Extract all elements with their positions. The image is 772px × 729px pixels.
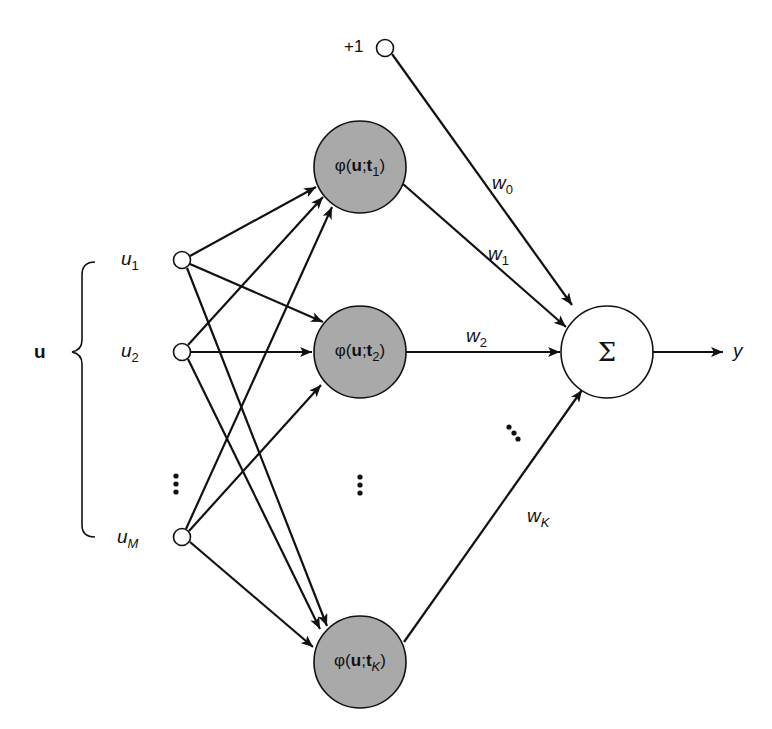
bias-node <box>377 40 394 57</box>
weight-label-w0: w0 <box>492 172 513 197</box>
output-connections <box>392 54 723 642</box>
ellipsis-hidden <box>357 474 362 495</box>
input-node-u2 <box>174 344 191 361</box>
edge-hK-sum <box>404 390 582 642</box>
edge-uM-h2 <box>189 385 321 531</box>
edge-bias-sum <box>392 54 572 305</box>
edge-h1-sum <box>403 184 566 327</box>
hidden-node-1-label: φ(u;t1) <box>335 156 385 179</box>
input-vector-label: u <box>34 341 46 363</box>
edge-uM-hK <box>190 542 313 647</box>
hidden-node-2-label: φ(u;t2) <box>335 341 385 364</box>
output-label: y <box>733 340 743 362</box>
input-label-u2: u2 <box>121 340 139 365</box>
edge-u1-h1 <box>190 187 316 256</box>
sum-symbol: Σ <box>598 337 616 367</box>
ellipsis-weights <box>506 424 520 441</box>
bias-label: +1 <box>344 37 363 57</box>
input-node-u1 <box>174 252 191 269</box>
weight-label-wK: wK <box>527 505 549 530</box>
weight-label-w2: w2 <box>466 325 487 350</box>
weight-label-w1: w1 <box>488 243 509 268</box>
edge-uM-h1 <box>186 207 332 529</box>
input-connections <box>186 187 332 647</box>
input-vector-brace <box>72 262 95 537</box>
input-label-u1: u1 <box>121 248 139 273</box>
network-diagram <box>0 0 772 729</box>
edge-u2-hK <box>188 359 320 629</box>
input-node-uM <box>174 529 191 546</box>
input-label-uM: uM <box>117 526 138 551</box>
hidden-node-K-label: φ(u;tK) <box>334 651 386 674</box>
ellipsis-inputs <box>173 473 178 494</box>
